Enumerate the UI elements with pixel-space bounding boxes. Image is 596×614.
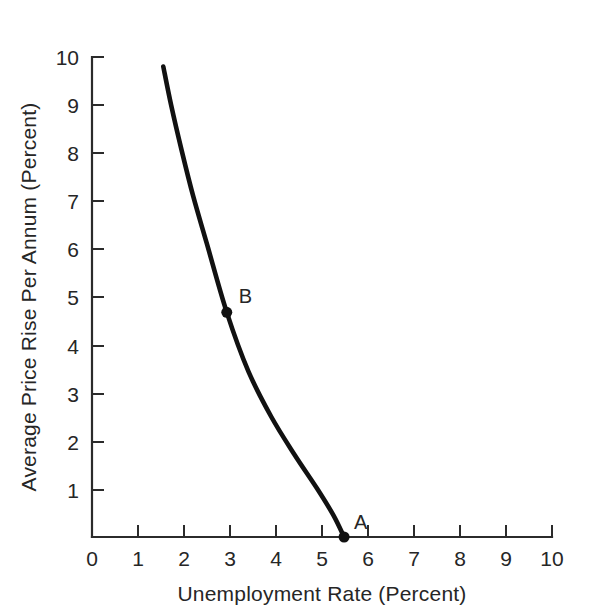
- y-tick-label-5: 5: [67, 286, 79, 309]
- data-point-a-label: A: [354, 511, 368, 533]
- data-point-a-marker: [339, 532, 350, 543]
- y-tick-label-4: 4: [67, 335, 79, 358]
- x-tick-label-8: 8: [454, 547, 466, 570]
- x-axis-tick-labels: 0 1 2 3 4 5 6 7 8 9 10: [86, 547, 564, 570]
- y-axis-tick-labels: 10 9 8 7 6 5 4 3 2 1: [56, 46, 80, 502]
- x-tick-label-4: 4: [270, 547, 282, 570]
- x-tick-label-9: 9: [500, 547, 512, 570]
- y-tick-label-8: 8: [67, 142, 79, 165]
- x-tick-label-5: 5: [316, 547, 328, 570]
- x-tick-label-1: 1: [132, 547, 144, 570]
- x-tick-label-2: 2: [178, 547, 190, 570]
- y-tick-label-7: 7: [67, 190, 79, 213]
- y-tick-label-9: 9: [67, 94, 79, 117]
- x-axis-title: Unemployment Rate (Percent): [177, 582, 466, 605]
- phillips-curve-line: [163, 67, 344, 537]
- x-tick-label-3: 3: [224, 547, 236, 570]
- y-tick-label-10: 10: [56, 46, 79, 69]
- data-point-b-label: B: [239, 285, 252, 307]
- x-tick-label-6: 6: [362, 547, 374, 570]
- chart-canvas: 10 9 8 7 6 5 4 3 2 1 0 1 2 3 4 5 6 7 8 9…: [0, 0, 596, 614]
- y-tick-label-3: 3: [67, 383, 79, 406]
- x-tick-label-0: 0: [86, 547, 98, 570]
- x-tick-label-10: 10: [540, 547, 563, 570]
- y-axis-title: Average Price Rise Per Annum (Percent): [17, 103, 40, 492]
- data-point-b-marker: [221, 307, 232, 318]
- y-axis-ticks: [92, 57, 104, 490]
- phillips-curve-chart: 10 9 8 7 6 5 4 3 2 1 0 1 2 3 4 5 6 7 8 9…: [0, 0, 596, 614]
- x-tick-label-7: 7: [408, 547, 420, 570]
- y-tick-label-6: 6: [67, 238, 79, 261]
- y-tick-label-1: 1: [67, 479, 79, 502]
- y-tick-label-2: 2: [67, 431, 79, 454]
